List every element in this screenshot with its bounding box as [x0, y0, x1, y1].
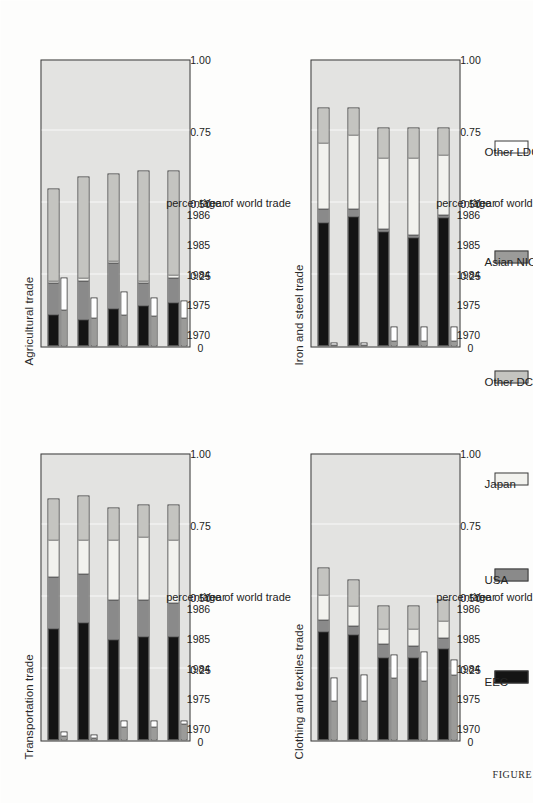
bar-segment-asian-nics [61, 735, 67, 739]
stacked-bar-ldc [120, 720, 128, 740]
stacked-bar-ldc [120, 291, 128, 346]
bar-segment-eec [348, 634, 358, 739]
bar-segment-other-dcs [318, 108, 328, 142]
y-tick-label: 0.25 [460, 663, 480, 675]
chart-panel-iron-steel: Iron and steel trade19701975198419851986… [292, 51, 507, 391]
bar-segment-asian-nics [151, 726, 157, 739]
bar-segment-other-ldcs [391, 655, 397, 678]
bar-segment-eec [378, 231, 388, 345]
bar-segment-japan [48, 539, 58, 576]
y-tick-label: 0.25 [190, 663, 210, 675]
bar-segment-usa [78, 573, 88, 622]
stacked-bar-ldc [420, 651, 428, 740]
panel-title: Agricultural trade [22, 276, 34, 365]
bar-segment-asian-nics [181, 317, 187, 345]
figure-caption-number: FIGURE 3-5 [492, 768, 533, 779]
stacked-bar-main [317, 567, 329, 740]
panel-title: Iron and steel trade [292, 264, 304, 365]
bar-segment-usa [348, 625, 358, 634]
year-group-1985 [401, 454, 431, 740]
panel-title: Clothing and textiles trade [292, 623, 304, 759]
stacked-bar-ldc [360, 674, 368, 740]
bar-segment-usa [348, 208, 358, 217]
bar-segment-asian-nics [91, 317, 97, 345]
bar-segment-japan [408, 628, 418, 645]
bar-segment-japan [108, 539, 118, 599]
year-group-1975 [341, 454, 371, 740]
y-axis-title: percentage of world trade [222, 453, 238, 741]
bar-segment-other-ldcs [421, 327, 427, 340]
y-tick-label: 0 [467, 341, 473, 353]
stacked-bar-main [377, 605, 389, 740]
bar-segment-usa [438, 637, 448, 648]
figure-area: Agricultural trade19701975198419851986Ye… [0, 0, 533, 803]
bar-segment-other-ldcs [331, 343, 337, 344]
bar-segment-eec [438, 648, 448, 739]
bar-segment-other-ldcs [181, 301, 187, 318]
y-tick-label: 0.75 [460, 519, 480, 531]
y-tick-label: 1.00 [190, 447, 210, 459]
stacked-bar-ldc [60, 731, 68, 740]
bar-segment-japan [348, 134, 358, 208]
y-axis-title: percentage of world trade [222, 59, 238, 347]
panel-title: Transportation trade [22, 654, 34, 759]
y-tick-label: 0.75 [190, 125, 210, 137]
stacked-bar-main [437, 599, 449, 740]
chart-panel-clothing-textiles: Clothing and textiles trade1970197519841… [292, 445, 507, 785]
y-tick-label: 1.00 [190, 53, 210, 65]
bar-segment-usa [48, 576, 58, 627]
year-group-1984 [371, 454, 401, 740]
bar-segment-other-ldcs [121, 721, 127, 726]
year-group-1975 [341, 60, 371, 346]
bar-segment-other-ldcs [91, 735, 97, 737]
legend-label: Asian NICs [484, 255, 533, 267]
stacked-bar-main [77, 495, 89, 740]
bar-segment-other-ldcs [151, 721, 157, 726]
bar-segment-asian-nics [451, 674, 457, 739]
bar-segment-usa [108, 262, 118, 308]
bar-segment-japan [78, 539, 88, 573]
bar-segment-other-dcs [108, 508, 118, 539]
legend-label: Other DCs [484, 375, 533, 387]
stacked-bar-ldc [150, 297, 158, 346]
stacked-bar-ldc [390, 654, 398, 740]
bar-segment-other-dcs [348, 580, 358, 606]
year-group-1970 [41, 454, 71, 740]
year-group-1985 [131, 60, 161, 346]
bar-segment-other-ldcs [361, 675, 367, 700]
bar-segment-other-ldcs [421, 652, 427, 680]
bar-segment-japan [378, 157, 388, 228]
bar-segment-usa [318, 208, 328, 222]
bar-segment-eec [318, 631, 328, 739]
bar-segment-other-ldcs [61, 732, 67, 734]
stacked-bar-ldc [330, 677, 338, 740]
y-tick-label: 0.75 [190, 519, 210, 531]
bar-segment-other-ldcs [61, 278, 67, 309]
stacked-bar-ldc [90, 297, 98, 346]
bar-segment-eec [108, 308, 118, 345]
year-group-1984 [101, 60, 131, 346]
bar-segment-other-ldcs [451, 660, 457, 674]
bar-segment-asian-nics [361, 700, 367, 739]
bar-segment-japan [378, 628, 388, 642]
y-tick-label: 0 [467, 735, 473, 747]
bar-segment-asian-nics [421, 680, 427, 739]
year-group-1984 [101, 454, 131, 740]
bar-segment-asian-nics [121, 726, 127, 739]
bar-segment-eec [138, 636, 148, 739]
stacked-bar-main [107, 507, 119, 740]
stacked-bar-ldc [150, 720, 158, 740]
bar-segment-other-dcs [138, 505, 148, 536]
bar-segment-japan [138, 536, 148, 599]
year-group-1985 [131, 454, 161, 740]
bar-segment-other-dcs [78, 177, 88, 277]
stacked-bar-main [437, 127, 449, 346]
bar-segment-other-dcs [168, 171, 178, 273]
bar-segment-usa [78, 280, 88, 320]
bar-segment-eec [78, 622, 88, 739]
bar-segment-other-dcs [168, 505, 178, 539]
bar-segment-japan [318, 594, 328, 620]
chart-panel-agricultural: Agricultural trade19701975198419851986Ye… [22, 51, 237, 391]
bar-segment-other-ldcs [181, 721, 187, 724]
bar-segment-other-ldcs [91, 298, 97, 317]
